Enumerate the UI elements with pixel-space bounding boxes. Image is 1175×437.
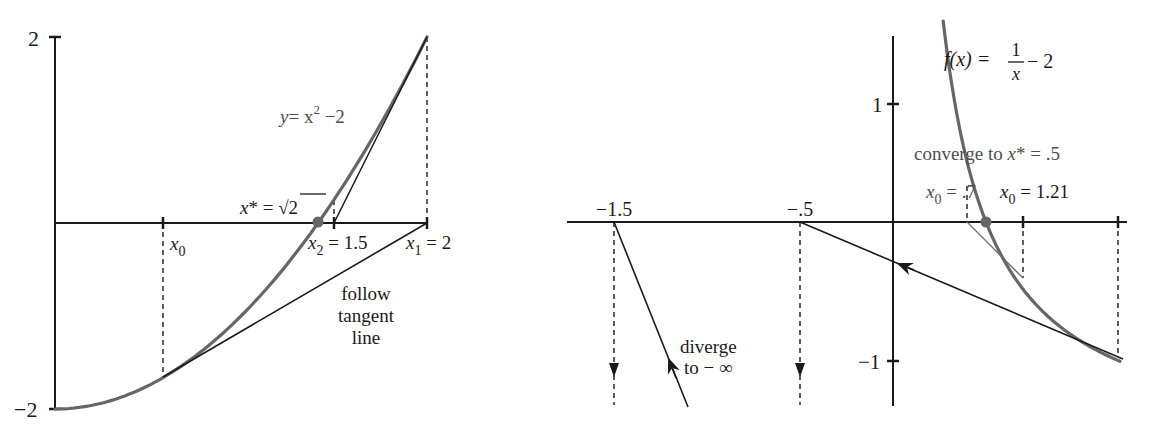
right-tangent-neg15 — [614, 222, 688, 407]
right-func-numerator: 1 — [1012, 40, 1021, 60]
left-root-label: x* = √2 — [239, 197, 298, 218]
right-func-label: f(x) = — [944, 48, 990, 71]
figure-canvas: 2 −2 y= x2 −2 x* = √2 x0 x2 = 1.5 x1 = — [0, 0, 1175, 437]
right-y-label-1: 1 — [872, 93, 883, 117]
left-panel: 2 −2 y= x2 −2 x* = √2 x0 x2 = 1.5 x1 = — [14, 26, 451, 422]
left-x1-label: x1 = 2 — [405, 232, 451, 258]
left-note-line1: follow — [341, 283, 391, 304]
left-y-label-top: 2 — [28, 26, 39, 51]
right-x0-121-label: x0 = 1.21 — [999, 181, 1069, 207]
right-tangent-121 — [800, 222, 1123, 359]
left-arrow-icon — [904, 266, 914, 270]
up-arrow-icon — [671, 365, 676, 378]
right-func-denominator: x — [1011, 64, 1020, 84]
right-x0-07-label: x0 = .7 — [925, 181, 976, 207]
left-x2-label: x2 = 1.5 — [307, 232, 367, 258]
left-note-line2: tangent — [338, 305, 395, 326]
down-arrow-icon — [795, 363, 805, 377]
left-curve-label: y= x2 −2 — [278, 102, 345, 127]
right-diverge-line1: diverge — [680, 336, 737, 357]
left-root-dot — [313, 217, 324, 228]
down-arrow-icon — [609, 363, 619, 377]
left-note-line3: line — [352, 327, 381, 348]
left-x0-label: x0 — [169, 233, 185, 259]
right-panel: 1 −1 −1.5 −.5 f(x) = 1 x − 2 c — [567, 21, 1127, 407]
right-diverge-line2: to − ∞ — [684, 357, 733, 378]
right-x-label-neg05: −.5 — [787, 198, 813, 220]
right-y-label-neg1: −1 — [858, 350, 880, 374]
right-x-label-neg15: −1.5 — [596, 198, 632, 220]
left-tangent-x1 — [334, 37, 427, 223]
left-y-label-bottom: −2 — [14, 397, 37, 422]
right-converge-label: converge to x* = .5 — [914, 143, 1060, 164]
right-tangent-07 — [967, 222, 1023, 278]
right-func-tail: − 2 — [1027, 50, 1053, 72]
right-root-dot — [981, 217, 992, 228]
